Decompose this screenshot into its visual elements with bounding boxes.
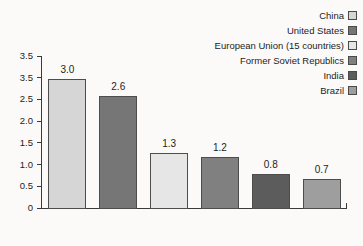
bar[interactable]: [201, 157, 239, 209]
chart-legend: ChinaUnited StatesEuropean Union (15 cou…: [127, 9, 357, 97]
y-axis-tick: 3.5: [0, 50, 41, 62]
bar[interactable]: [99, 96, 137, 209]
y-axis-tick: 0: [0, 202, 41, 214]
bar[interactable]: [150, 153, 188, 209]
y-axis-tick: 0.5: [0, 180, 41, 192]
bar-value-label: 0.7: [289, 164, 355, 176]
y-axis-tick-mark: [37, 121, 41, 122]
y-axis-tick-label: 2.0: [0, 115, 33, 127]
legend-color-swatch: [348, 71, 357, 80]
legend-color-swatch: [348, 41, 357, 50]
legend-item-label: India: [323, 69, 344, 82]
legend-item[interactable]: Former Soviet Republics: [240, 54, 357, 67]
legend-item-label: European Union (15 countries): [215, 39, 344, 52]
bar-value-label: 3.0: [34, 64, 100, 76]
legend-item-label: Former Soviet Republics: [240, 54, 344, 67]
y-axis-tick-label: 3.5: [0, 50, 33, 62]
y-axis-tick: 1.5: [0, 137, 41, 149]
legend-item-label: United States: [287, 24, 344, 37]
y-axis-tick-mark: [37, 99, 41, 100]
y-axis-tick-mark: [37, 208, 41, 209]
bar[interactable]: [303, 179, 341, 209]
bar[interactable]: [48, 79, 86, 209]
legend-item[interactable]: Brazil: [320, 84, 357, 97]
legend-color-swatch: [348, 86, 357, 95]
y-axis-tick-label: 2.5: [0, 93, 33, 105]
y-axis-tick-label: 3.5: [0, 72, 33, 84]
y-axis-tick: 1.0: [0, 159, 41, 171]
y-axis-tick-mark: [37, 164, 41, 165]
legend-color-swatch: [348, 56, 357, 65]
y-axis-tick-mark: [37, 142, 41, 143]
y-axis-tick-label: 0: [0, 202, 33, 214]
bar[interactable]: [252, 174, 290, 209]
y-axis-tick: 2.0: [0, 115, 41, 127]
bar-group: 3.0: [48, 56, 86, 209]
legend-item[interactable]: United States: [287, 24, 357, 37]
legend-item-label: China: [319, 9, 344, 22]
y-axis-tick-mark: [37, 56, 41, 57]
y-axis-tick-label: 1.5: [0, 137, 33, 149]
y-axis-tick-mark: [37, 186, 41, 187]
y-axis-tick-label: 1.0: [0, 159, 33, 171]
legend-color-swatch: [348, 26, 357, 35]
bar-chart-figure: 3.53.52.52.01.51.00.50 3.02.61.31.20.80.…: [0, 0, 363, 246]
legend-item[interactable]: European Union (15 countries): [215, 39, 357, 52]
y-axis-tick-mark: [37, 77, 41, 78]
legend-item-label: Brazil: [320, 84, 344, 97]
legend-item[interactable]: China: [319, 9, 357, 22]
legend-color-swatch: [348, 11, 357, 20]
y-axis-tick: 2.5: [0, 93, 41, 105]
bar-value-label: 1.2: [187, 142, 253, 154]
legend-item[interactable]: India: [323, 69, 357, 82]
y-axis-tick-label: 0.5: [0, 180, 33, 192]
